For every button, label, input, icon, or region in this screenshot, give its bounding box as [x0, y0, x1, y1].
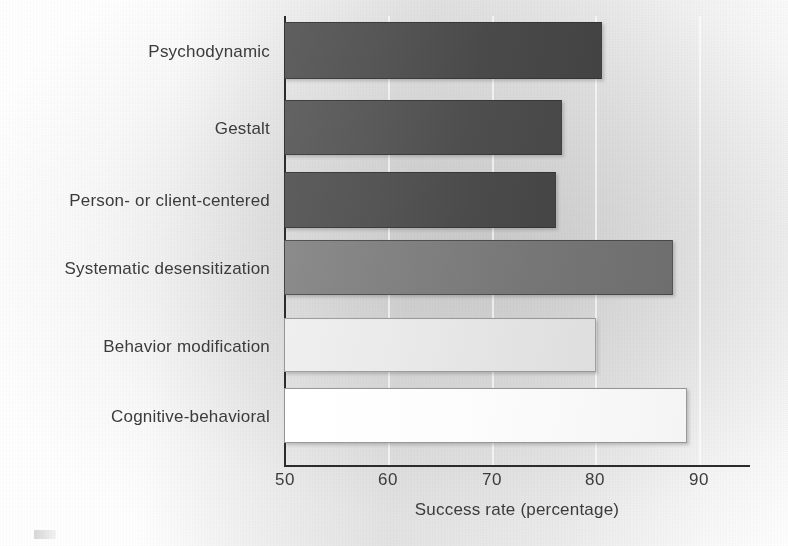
- x-tick-label-50: 50: [255, 470, 315, 490]
- bar-chart-figure: Psychodynamic Gestalt Person- or client-…: [0, 0, 788, 546]
- bar-systematic-desensitization: [284, 240, 673, 295]
- category-label-cognitive-behavioral: Cognitive-behavioral: [111, 407, 270, 427]
- category-label-person-or-client-centered: Person- or client-centered: [69, 191, 270, 211]
- x-axis-line: [284, 465, 750, 467]
- bar-cognitive-behavioral: [284, 388, 687, 443]
- bar-person-or-client-centered: [284, 172, 556, 228]
- category-label-behavior-modification: Behavior modification: [103, 337, 270, 357]
- category-label-systematic-desensitization: Systematic desensitization: [64, 259, 270, 279]
- plot-area: [284, 16, 754, 465]
- x-tick-label-60: 60: [358, 470, 418, 490]
- category-label-psychodynamic: Psychodynamic: [148, 42, 270, 62]
- x-tick-label-90: 90: [669, 470, 729, 490]
- bar-behavior-modification: [284, 318, 596, 372]
- bar-psychodynamic: [284, 22, 602, 79]
- scan-artifact-speck: [34, 530, 56, 539]
- x-axis-title: Success rate (percentage): [284, 500, 750, 520]
- x-tick-label-70: 70: [462, 470, 522, 490]
- x-tick-label-80: 80: [565, 470, 625, 490]
- category-label-gestalt: Gestalt: [215, 119, 270, 139]
- bar-gestalt: [284, 100, 562, 155]
